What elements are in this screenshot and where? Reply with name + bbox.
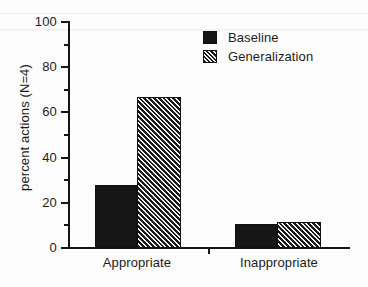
bar-appropriate-baseline — [95, 185, 137, 248]
y-tick-label-0: 0 — [17, 240, 57, 255]
legend-label-baseline: Baseline — [228, 30, 279, 45]
x-category-label-inappropriate: Inappropriate — [214, 255, 344, 270]
x-axis-center-tick — [208, 248, 210, 254]
chart-legend: Baseline Generalization — [203, 29, 313, 67]
x-category-label-appropriate: Appropriate — [77, 255, 197, 270]
chart-figure: 0 20 40 60 80 100 percent actions (N=4) … — [0, 0, 368, 287]
y-tick-label-100: 100 — [17, 14, 57, 29]
legend-swatch-solid-icon — [203, 31, 217, 44]
bar-inappropriate-baseline — [235, 224, 277, 248]
bar-inappropriate-generalization — [277, 222, 321, 248]
bar-appropriate-generalization — [137, 97, 181, 248]
y-axis-title: percent actions (N=4) — [17, 48, 32, 208]
legend-swatch-hatched-icon — [203, 50, 217, 63]
legend-label-generalization: Generalization — [228, 49, 313, 64]
legend-item-generalization: Generalization — [203, 48, 313, 65]
legend-item-baseline: Baseline — [203, 29, 313, 46]
